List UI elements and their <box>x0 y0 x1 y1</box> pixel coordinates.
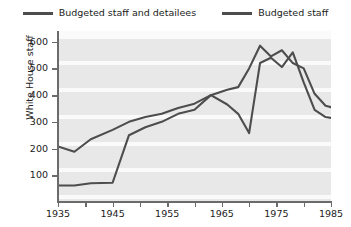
y-axis-line <box>57 31 59 202</box>
chart-legend: Budgeted staff and detailees Budgeted st… <box>0 4 351 22</box>
y-axis-tick <box>52 42 57 43</box>
y-axis-tick-label: 500 <box>18 62 48 73</box>
legend-swatch-icon <box>222 12 252 15</box>
x-axis-minor-tick <box>140 202 141 207</box>
y-axis-tick-label: 100 <box>18 169 48 180</box>
x-axis-tick <box>167 202 168 207</box>
y-axis-tick <box>52 149 57 150</box>
x-axis-minor-tick <box>249 202 250 207</box>
x-axis-tick-label: 1945 <box>93 208 133 219</box>
x-axis-tick-label: 1955 <box>147 208 187 219</box>
x-axis-minor-tick <box>195 202 196 207</box>
x-axis-tick-label: 1965 <box>202 208 242 219</box>
legend-item-budgeted-staff: Budgeted staff <box>222 8 328 18</box>
y-axis-tick-label: 300 <box>18 116 48 127</box>
chart-container: Budgeted staff and detailees Budgeted st… <box>0 0 351 227</box>
y-axis-tick-label: 600 <box>18 36 48 47</box>
legend-item-budgeted-staff-and-detailees: Budgeted staff and detailees <box>23 8 196 18</box>
y-axis-tick <box>52 95 57 96</box>
x-axis-tick <box>276 202 277 207</box>
x-axis-tick <box>222 202 223 207</box>
y-axis-tick-label: 400 <box>18 89 48 100</box>
x-axis-minor-tick <box>304 202 305 207</box>
y-axis-tick-label: 200 <box>18 143 48 154</box>
series-lines <box>58 31 331 202</box>
y-axis-tick <box>52 68 57 69</box>
legend-label: Budgeted staff and detailees <box>59 8 196 18</box>
x-axis-tick-label: 1985 <box>311 208 351 219</box>
x-axis-tick-label: 1975 <box>256 208 296 219</box>
y-axis-tick <box>52 122 57 123</box>
x-axis-tick-label: 1935 <box>38 208 78 219</box>
line-budgeted-staff <box>58 52 331 185</box>
plot-area <box>58 31 331 202</box>
line-budgeted-staff-and-detailees <box>58 46 331 152</box>
y-axis-tick <box>52 175 57 176</box>
legend-label: Budgeted staff <box>258 8 328 18</box>
x-axis-minor-tick <box>85 202 86 207</box>
x-axis-tick <box>58 202 59 207</box>
x-axis-tick <box>113 202 114 207</box>
x-axis-tick <box>331 202 332 207</box>
